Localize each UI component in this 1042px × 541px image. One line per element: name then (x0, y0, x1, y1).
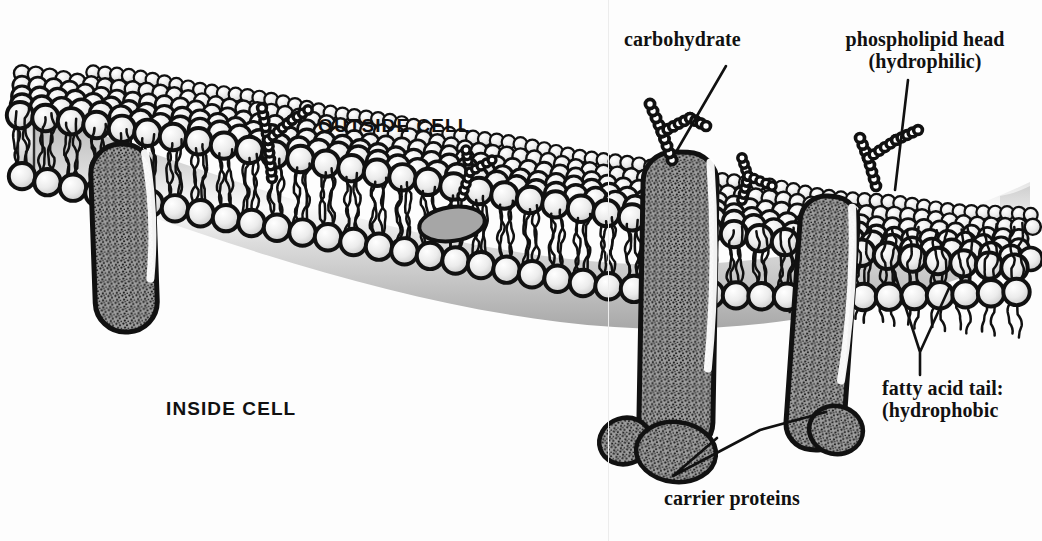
label-fatty-acid-tails: fatty acid tail: (hydrophobic (882, 377, 1042, 422)
label-fatty-acid-tails-line2: (hydrophobic (882, 399, 998, 421)
label-phospholipid-head-line2: (hydrophilic) (868, 50, 981, 72)
leader-phospholipid-head (895, 80, 908, 190)
scan-artifact-line (608, 0, 609, 541)
leader-carrier-proteins (673, 412, 826, 476)
leader-carbohydrate (676, 66, 726, 152)
leader-lines (0, 0, 1042, 541)
label-carbohydrate: carbohydrate (624, 28, 741, 50)
membrane-diagram: OUTSIDE CELL INSIDE CELL carbohydrate ph… (0, 0, 1042, 541)
label-fatty-acid-tails-line1: fatty acid tail: (882, 377, 1004, 399)
leader-fatty-acid-tails (893, 268, 950, 375)
label-phospholipid-head-line1: phospholipid head (845, 28, 1004, 50)
label-inside-cell: INSIDE CELL (166, 398, 296, 419)
label-carrier-proteins: carrier proteins (664, 487, 800, 509)
label-phospholipid-head: phospholipid head (hydrophilic) (812, 28, 1038, 73)
label-outside-cell: OUTSIDE CELL (318, 115, 471, 136)
